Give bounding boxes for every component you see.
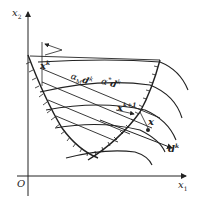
y-axis-label: x2 xyxy=(12,8,21,20)
alpha-m-arrow xyxy=(45,44,62,50)
contour-lines xyxy=(38,60,188,165)
diagram-canvas xyxy=(0,0,200,202)
point-xk1-label: xk+1 xyxy=(117,102,136,113)
point-x-label: x xyxy=(148,117,154,127)
origin-label: O xyxy=(17,179,25,189)
point-xk-label: xk xyxy=(40,60,50,71)
point-x xyxy=(146,128,150,132)
x-axis-label: x1 xyxy=(178,180,187,192)
direction-dk-label: dk xyxy=(168,143,179,154)
alpha-m-arrow2 xyxy=(45,50,62,55)
x-indicator xyxy=(140,112,148,128)
